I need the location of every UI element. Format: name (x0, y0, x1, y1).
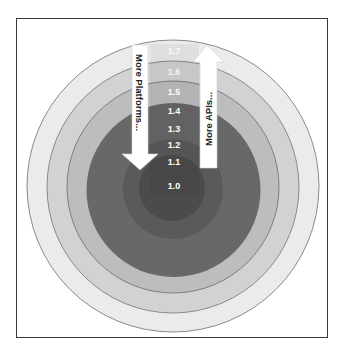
label-1-1: 1.1 (168, 157, 181, 167)
label-1-6: 1.6 (168, 67, 181, 77)
label-1-7: 1.7 (168, 46, 181, 56)
label-1-5: 1.5 (168, 87, 181, 97)
arrow-up-label: More APIs... (203, 92, 214, 146)
arrow-down-label: More Platforms... (134, 54, 145, 131)
label-1-2: 1.2 (168, 140, 181, 150)
label-1-4: 1.4 (168, 106, 181, 116)
label-1-3: 1.3 (168, 124, 181, 134)
concentric-rings-diagram: 1.7 1.6 1.5 1.4 1.3 1.2 1.1 1.0 More Pla… (0, 0, 345, 352)
label-1-0: 1.0 (168, 181, 181, 191)
